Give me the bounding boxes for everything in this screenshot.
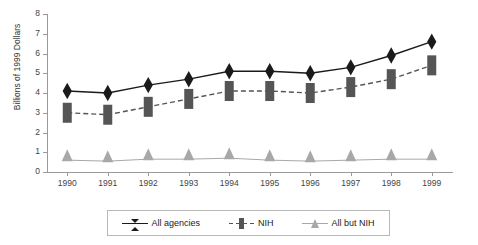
data-point (386, 148, 397, 160)
data-point (144, 97, 153, 117)
y-tick-label: 5 (18, 68, 40, 76)
x-tick-label: 1998 (371, 178, 411, 188)
x-tick-label: 1996 (290, 178, 330, 188)
data-point (62, 149, 73, 161)
data-point (306, 65, 315, 81)
data-point (103, 85, 112, 101)
legend-item-all-but-nih[interactable]: All but NIH (302, 217, 374, 229)
data-point (346, 77, 355, 97)
data-point (427, 33, 436, 49)
legend-label: All agencies (151, 218, 200, 228)
x-tick-mark (310, 173, 311, 176)
data-point (144, 77, 153, 93)
data-point (63, 103, 72, 123)
data-point (183, 148, 194, 160)
y-tick-label: 7 (18, 29, 40, 37)
x-tick-mark (432, 173, 433, 176)
data-point (63, 83, 72, 99)
x-tick-label: 1990 (47, 178, 87, 188)
data-point (426, 148, 437, 160)
legend-item-all-agencies[interactable]: All agencies (122, 217, 200, 229)
data-point (184, 89, 193, 109)
chart-container: Billions of 1999 Dollars 012345678 19901… (0, 0, 478, 245)
y-tick-label: 4 (18, 88, 40, 96)
x-tick-label: 1997 (331, 178, 371, 188)
plot-area (47, 14, 452, 172)
series-line (67, 158, 432, 161)
data-point (184, 71, 193, 87)
series-line (67, 42, 432, 93)
y-tick-label: 6 (18, 49, 40, 57)
data-point (143, 148, 154, 160)
x-tick-mark (67, 173, 68, 176)
x-tick-label: 1994 (209, 178, 249, 188)
x-tick-label: 1999 (412, 178, 452, 188)
series-all-but-nih (62, 147, 438, 162)
x-tick-mark (189, 173, 190, 176)
data-point (427, 55, 436, 75)
x-tick-label: 1995 (250, 178, 290, 188)
legend-marker-icon (229, 217, 255, 229)
data-point (305, 150, 316, 162)
data-point (264, 149, 275, 161)
legend-label: All but NIH (331, 218, 374, 228)
legend-label: NIH (258, 218, 274, 228)
data-point (345, 149, 356, 161)
data-point (103, 105, 112, 125)
x-tick-mark (391, 173, 392, 176)
y-tick-label: 8 (18, 9, 40, 17)
x-tick-label: 1992 (128, 178, 168, 188)
data-point (265, 63, 274, 79)
chart-legend: All agenciesNIHAll but NIH (107, 210, 390, 236)
x-tick-mark (148, 173, 149, 176)
legend-marker-icon (122, 217, 148, 229)
y-tick-mark (43, 172, 47, 173)
data-point (346, 59, 355, 75)
data-point (306, 83, 315, 103)
data-point (224, 147, 235, 159)
data-point (387, 69, 396, 89)
data-point (225, 63, 234, 79)
x-tick-mark (229, 173, 230, 176)
x-tick-label: 1993 (169, 178, 209, 188)
data-point (387, 47, 396, 63)
y-tick-label: 1 (18, 147, 40, 155)
legend-marker-icon (302, 217, 328, 229)
data-point (225, 81, 234, 101)
y-tick-label: 0 (18, 167, 40, 175)
x-tick-mark (108, 173, 109, 176)
x-tick-mark (351, 173, 352, 176)
y-tick-label: 3 (18, 108, 40, 116)
legend-item-nih[interactable]: NIH (229, 217, 274, 229)
data-point (102, 150, 113, 162)
series-plot (47, 14, 452, 172)
data-point (265, 81, 274, 101)
x-tick-mark (270, 173, 271, 176)
x-tick-label: 1991 (88, 178, 128, 188)
y-tick-label: 2 (18, 128, 40, 136)
series-nih (63, 55, 437, 124)
